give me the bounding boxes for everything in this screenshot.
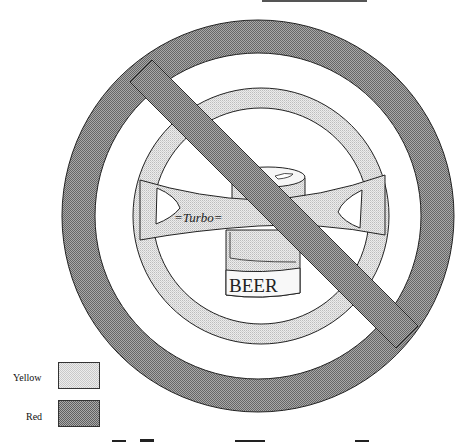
beer-label: BEER (229, 275, 278, 296)
turbo-label: =Turbo= (174, 210, 223, 225)
legend-swatch-red (58, 400, 100, 427)
legend-label-yellow: Yellow (13, 372, 41, 383)
steering-wheel-and-can: =Turbo= BEER (133, 88, 389, 344)
legend-swatch-yellow (58, 362, 100, 389)
cropped-top-text (262, 0, 367, 2)
legend-label-red: Red (26, 411, 42, 422)
